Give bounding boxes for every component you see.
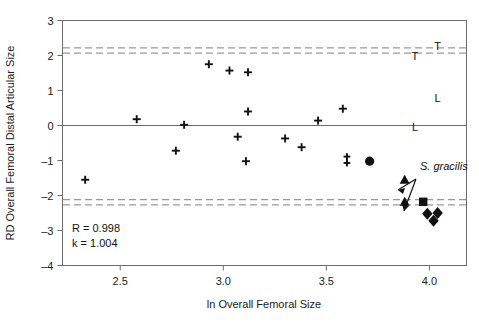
scatter-plot-figure: –4–3–2–10123 2.53.03.54.0 TTLL S. gracil… (0, 0, 479, 325)
figure-background (0, 0, 479, 325)
species-label: S. gracilis (420, 160, 468, 172)
y-tick-label: 1 (47, 85, 53, 97)
y-tick-label: –2 (41, 190, 53, 202)
data-point-letter-T: T (412, 50, 419, 62)
correlation-annotation: R = 0.998 (72, 222, 120, 234)
x-tick-label: 4.0 (422, 275, 437, 287)
chart-canvas: –4–3–2–10123 2.53.03.54.0 TTLL S. gracil… (0, 0, 479, 325)
data-point-letter-T: T (434, 40, 441, 52)
y-tick-label: 0 (47, 120, 53, 132)
y-tick-label: –3 (41, 225, 53, 237)
x-axis-title: ln Overall Femoral Size (207, 298, 321, 310)
y-tick-label: –1 (41, 155, 53, 167)
y-axis-title: RD Overall Femoral Distal Articular Size (4, 46, 16, 241)
x-tick-label: 2.5 (113, 275, 128, 287)
y-tick-label: 2 (47, 50, 53, 62)
x-tick-label: 3.5 (319, 275, 334, 287)
data-point-letter-L: L (412, 121, 418, 133)
data-point-circle (365, 157, 374, 166)
y-tick-label: 3 (47, 15, 53, 27)
x-tick-label: 3.0 (216, 275, 231, 287)
data-point-square (419, 198, 427, 206)
data-point-letter-L: L (435, 92, 441, 104)
slope-annotation: k = 1.004 (72, 237, 118, 249)
y-tick-label: –4 (41, 260, 53, 272)
